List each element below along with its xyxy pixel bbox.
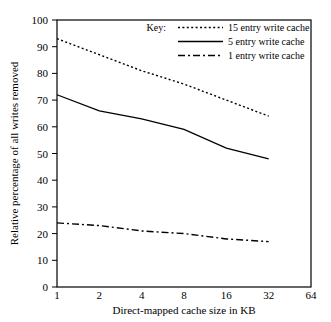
y-tick-label-30: 30 xyxy=(37,201,49,213)
x-tick-label-8: 8 xyxy=(181,289,187,301)
y-tick-label-100: 100 xyxy=(32,14,49,26)
y-tick-label-40: 40 xyxy=(37,174,49,186)
y-tick-label-60: 60 xyxy=(37,121,49,133)
x-tick-label-1: 1 xyxy=(54,289,60,301)
y-tick-label-90: 90 xyxy=(37,41,49,53)
y-tick-label-80: 80 xyxy=(37,67,49,79)
x-tick-label-32: 32 xyxy=(263,289,274,301)
x-tick-label-16: 16 xyxy=(221,289,233,301)
line-chart: 0 10 20 30 40 50 60 70 80 90 100 1 2 4 8… xyxy=(0,0,331,322)
chart-figure: 0 10 20 30 40 50 60 70 80 90 100 1 2 4 8… xyxy=(0,0,331,322)
legend-label-1-entry-write-cache: 1 entry write cache xyxy=(228,50,305,61)
y-tick-label-20: 20 xyxy=(37,228,49,240)
y-axis-title: Relative percentage of all writes remove… xyxy=(8,61,20,245)
y-tick-label-70: 70 xyxy=(37,94,49,106)
legend-label-5-entry-write-cache: 5 entry write cache xyxy=(228,36,305,47)
y-tick-label-0: 0 xyxy=(43,281,49,293)
legend-title: Key: xyxy=(147,22,166,33)
y-tick-label-50: 50 xyxy=(37,148,49,160)
x-tick-label-64: 64 xyxy=(306,289,318,301)
y-tick-label-10: 10 xyxy=(37,254,49,266)
x-axis-title: Direct-mapped cache size in KB xyxy=(113,304,256,316)
x-tick-label-4: 4 xyxy=(139,289,145,301)
legend-label-15-entry-write-cache: 15 entry write cache xyxy=(228,22,310,33)
chart-background xyxy=(0,0,331,322)
x-tick-label-2: 2 xyxy=(97,289,103,301)
